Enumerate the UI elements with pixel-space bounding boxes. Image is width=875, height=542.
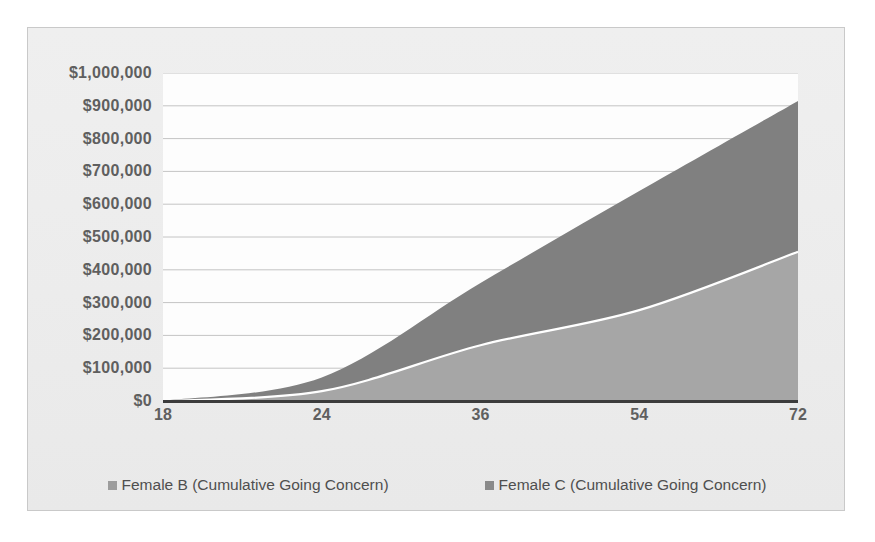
- y-tick-label: $300,000: [83, 294, 152, 312]
- y-tick-label: $900,000: [83, 97, 152, 115]
- chart-legend: Female B (Cumulative Going Concern)Femal…: [28, 468, 846, 502]
- y-tick-label: $1,000,000: [69, 64, 152, 82]
- y-tick-label: $700,000: [83, 162, 152, 180]
- legend-entry[interactable]: Female C (Cumulative Going Concern): [485, 476, 767, 494]
- y-tick-label: $100,000: [83, 359, 152, 377]
- plot-area: [163, 73, 798, 401]
- y-tick-label: $0: [134, 392, 152, 410]
- x-tick-label: 54: [630, 406, 648, 424]
- series-areas: [163, 101, 798, 401]
- y-tick-label: $200,000: [83, 326, 152, 344]
- y-tick-label: $500,000: [83, 228, 152, 246]
- x-axis: 1824365472: [163, 406, 798, 432]
- chart-root: $1,000,000$900,000$800,000$700,000$600,0…: [0, 0, 875, 542]
- y-tick-label: $400,000: [83, 261, 152, 279]
- y-tick-label: $600,000: [83, 195, 152, 213]
- legend-swatch-icon: [485, 481, 494, 490]
- x-tick-label: 72: [789, 406, 807, 424]
- x-tick-label: 24: [313, 406, 331, 424]
- legend-entry[interactable]: Female B (Cumulative Going Concern): [108, 476, 389, 494]
- chart-frame: $1,000,000$900,000$800,000$700,000$600,0…: [27, 27, 845, 511]
- y-axis: $1,000,000$900,000$800,000$700,000$600,0…: [48, 73, 158, 401]
- legend-label: Female B (Cumulative Going Concern): [122, 476, 389, 494]
- plot-svg: [163, 73, 798, 401]
- legend-label: Female C (Cumulative Going Concern): [499, 476, 767, 494]
- x-tick-label: 18: [154, 406, 172, 424]
- y-tick-label: $800,000: [83, 130, 152, 148]
- x-tick-label: 36: [472, 406, 490, 424]
- legend-swatch-icon: [108, 481, 117, 490]
- x-axis-line: [163, 400, 798, 403]
